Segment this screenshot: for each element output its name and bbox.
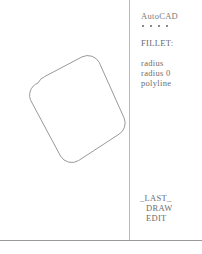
status-baseline-divider [0, 240, 202, 241]
app-title: AutoCAD [141, 11, 178, 21]
side-menu-panel: AutoCAD FILLET: radius radius 0 polyline… [130, 0, 202, 240]
menu-item-polyline[interactable]: polyline [141, 78, 171, 88]
drawing-area[interactable] [0, 0, 129, 240]
separator-dot [158, 25, 160, 27]
separator-dot [142, 25, 144, 27]
menu-item-last[interactable]: _LAST_ [140, 193, 172, 203]
menu-item-radius[interactable]: radius [141, 58, 164, 68]
menu-item-edit[interactable]: EDIT [146, 213, 167, 223]
filleted-polyline-shape[interactable] [30, 56, 126, 163]
separator-dot [150, 25, 152, 27]
autocad-screen: AutoCAD FILLET: radius radius 0 polyline… [0, 0, 202, 254]
menu-item-draw[interactable]: DRAW [146, 203, 173, 213]
menu-separator-dots [142, 25, 168, 27]
drawing-canvas-svg [0, 0, 129, 240]
active-command-label: FILLET: [141, 38, 173, 48]
menu-item-radius-zero[interactable]: radius 0 [141, 68, 171, 78]
separator-dot [166, 25, 168, 27]
